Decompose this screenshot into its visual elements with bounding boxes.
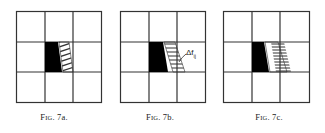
grid-diagram-7a xyxy=(0,0,108,110)
figure-caption-7b: FIG. 7b. xyxy=(106,112,214,122)
figure-7a: FIG. 7a. xyxy=(0,0,108,133)
figure-caption-7c: FIG. 7c. xyxy=(215,112,323,122)
grid-diagram-7b: Δfij xyxy=(106,0,218,110)
grid-diagram-7c xyxy=(215,0,325,110)
figure-caption-7a: FIG. 7a. xyxy=(0,112,108,122)
filled-region xyxy=(252,42,269,72)
figure-7c: FIG. 7c. xyxy=(215,0,323,133)
annotation-delta-f: Δfij xyxy=(186,48,196,59)
figure-7b: Δfij FIG. 7b. xyxy=(106,0,214,133)
